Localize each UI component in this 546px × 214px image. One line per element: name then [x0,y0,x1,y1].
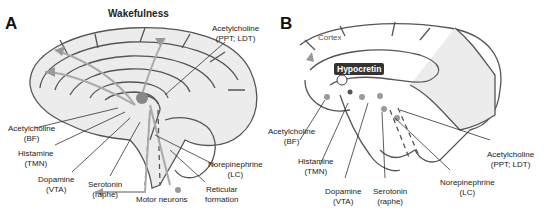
label-line: Serotonin [88,180,122,190]
label-ach-ppt-b: Acetylcholine (PPT; LDT) [487,150,534,169]
label-line: Histamine [298,157,334,167]
label-line: (LC) [440,188,495,198]
label-serotonin-a: Serotonin (raphe) [88,180,122,199]
label-line: Norepinephrine [440,178,495,188]
label-reticular: Reticular formation [205,185,238,204]
label-line: Norepinephrine [208,160,263,170]
label-serotonin-b: Serotonin (raphe) [373,187,407,206]
label-ach-bf-a: Acetylcholine (BF) [8,124,55,143]
label-motor-neurons: Motor neurons [136,195,188,205]
label-line: (TMN) [18,159,54,169]
label-ach-ppt-a: Acetylcholine (PPT; LDT) [212,24,259,43]
label-line: (BF) [268,137,315,147]
label-line: Acetylcholine [268,127,315,137]
panel-b-brain [300,22,501,171]
hypocretin-badge: Hypocretin [334,63,384,75]
label-line: (raphe) [373,197,407,207]
label-line: (VTA) [38,185,74,195]
label-line: Histamine [18,149,54,159]
label-line: (TMN) [298,167,334,177]
panel-a-title: Wakefulness [108,8,169,19]
label-line: Acetylcholine [212,24,259,34]
label-norepinephrine-a: Norepinephrine (LC) [208,160,263,179]
label-line: formation [205,195,238,205]
label-line: Acetylcholine [487,150,534,160]
label-line: Serotonin [373,187,407,197]
label-histamine-b: Histamine (TMN) [298,157,334,176]
label-line: (BF) [8,134,55,144]
label-line: (PPT; LDT) [212,34,259,44]
label-line: (LC) [208,170,263,180]
label-line: Reticular [205,185,238,195]
label-ach-bf-b: Acetylcholine (BF) [268,127,315,146]
panel-a-letter: A [5,14,17,34]
label-line: (VTA) [325,197,361,207]
label-line: Dopamine [38,175,74,185]
label-line: Acetylcholine [8,124,55,134]
label-line: (raphe) [88,190,122,200]
label-norepinephrine-b: Norepinephrine (LC) [440,178,495,197]
label-line: Dopamine [325,187,361,197]
label-line: (PPT; LDT) [487,160,534,170]
label-cortex: Cortex [318,33,342,43]
label-dopamine-a: Dopamine (VTA) [38,175,74,194]
label-histamine-a: Histamine (TMN) [18,149,54,168]
panel-b-letter: B [280,14,292,34]
label-dopamine-b: Dopamine (VTA) [325,187,361,206]
